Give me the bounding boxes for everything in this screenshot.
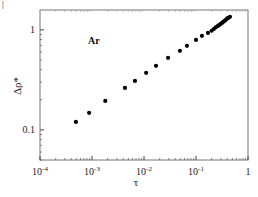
x-axis: 10-410-310-210-11 <box>32 10 250 177</box>
data-point <box>166 56 170 60</box>
data-point <box>133 79 137 83</box>
y-axis: 0.11 <box>23 24 45 160</box>
x-tick-label: 1 <box>246 166 251 177</box>
data-points <box>74 15 232 124</box>
data-point <box>194 38 198 42</box>
data-point <box>206 31 210 35</box>
data-point <box>200 34 204 38</box>
y-tick-label: 1 <box>30 24 35 35</box>
data-point <box>178 49 182 53</box>
x-tick-label: 10-1 <box>188 165 204 177</box>
x-tick-label: 10-4 <box>32 165 48 177</box>
data-point <box>154 64 158 68</box>
annotation-label: Ar <box>88 35 100 46</box>
scatter-chart: | 10-410-310-210-11 0.11 Ar τ Δρ* <box>0 0 258 197</box>
x-tick-label: 10-2 <box>136 165 152 177</box>
y-axis-title: Δρ* <box>11 77 23 95</box>
data-point <box>103 99 107 103</box>
corner-mark: | <box>2 0 4 9</box>
y-tick-label: 0.1 <box>23 124 36 135</box>
x-tick-label: 10-3 <box>84 165 100 177</box>
plot-frame <box>40 10 248 160</box>
axes-box <box>40 10 248 160</box>
x-axis-title: τ <box>134 176 139 188</box>
data-point <box>185 44 189 48</box>
data-point <box>123 86 127 90</box>
data-point <box>74 120 78 124</box>
data-point <box>87 111 91 115</box>
data-point <box>144 71 148 75</box>
data-point <box>228 15 232 19</box>
